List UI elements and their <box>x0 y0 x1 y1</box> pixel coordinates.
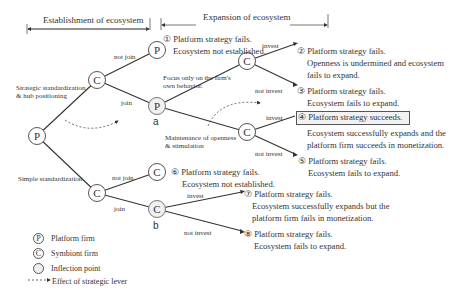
inflection-point-icon <box>33 263 44 274</box>
outcome-3-title: ③ Platform strategy fails. <box>297 85 386 97</box>
legend-symbiont-label: Symbiont firm <box>51 249 98 258</box>
outcome-2-desc-1: Openness is undermined and ecosystem <box>307 57 444 69</box>
outcome-6-title: ⑥ Platform strategy fails. <box>171 166 260 178</box>
edge-label-maintenance-2: & stimulation <box>165 142 204 150</box>
outcome-2-title: ② Platform strategy fails. <box>297 45 386 57</box>
edge-label-join-upper: join <box>121 99 132 107</box>
edge-label-not-invest-5: not invest <box>255 150 282 158</box>
edge-label-not-join-upper: not join <box>114 53 136 61</box>
edge-label-invest-7: invest <box>187 192 204 200</box>
outcome-4-title: ④ Platform strategy succeeds. <box>298 111 402 123</box>
node-label-b: b <box>153 220 159 231</box>
edge-label-not-join-lower: not join <box>112 174 134 182</box>
symbiont-node-b: C <box>148 200 166 218</box>
edge-label-strategic-std-1: Strategic standardization <box>16 84 85 92</box>
outcome-4-desc-1: Ecosystem successfully expands and the <box>307 127 446 139</box>
symbiont-node-upper: C <box>88 71 106 89</box>
expansion-header: Expansion of ecosystem <box>203 11 290 23</box>
edge-label-not-invest-8: not invest <box>184 229 211 237</box>
legend-platform-label: Platform firm <box>51 234 95 243</box>
edge-label-focus-2: own behavior. <box>163 82 203 90</box>
edge-label-simple-std: Simple standardization <box>18 175 82 183</box>
outcome-2-desc-2: fails to expand. <box>307 69 360 81</box>
outcome-5-title: ⑤ Platform strategy fails. <box>298 155 387 167</box>
symbiont-node-notjoin-lower: C <box>148 163 166 181</box>
outcome-8-title: ⑧ Platform strategy fails. <box>244 228 333 240</box>
node-label-a: a <box>153 116 159 127</box>
edge-label-not-invest-3: not invest <box>255 87 282 95</box>
edge-label-strategic-std-2: & hub positioning <box>16 92 67 100</box>
edge-label-focus-1: Focus only on the firm's <box>163 74 231 82</box>
outcome-5-desc: Ecosystem fails to expand. <box>308 167 400 179</box>
platform-node-a: P <box>148 97 166 115</box>
platform-node-root: P <box>28 127 46 145</box>
outcome-7-desc-2: platform firm fails in monetization. <box>252 212 373 224</box>
outcome-7-desc-1: Ecosystem successfully expands but the <box>252 200 389 212</box>
legend-lever-label: Effect of strategic lever <box>52 277 127 286</box>
symbiont-node-lower: C <box>88 184 106 202</box>
platform-firm-icon: P <box>33 233 44 244</box>
outcome-4-desc-2: platform firm succeeds in monetization. <box>307 139 444 151</box>
legend-inflection-label: Inflection point <box>51 264 101 273</box>
symbiont-firm-icon: C <box>33 248 44 259</box>
outcome-1-title: ① Platform strategy fails. <box>163 33 252 45</box>
symbiont-node-mid-right: C <box>238 123 256 141</box>
outcome-7-title: ⑦ Platform strategy fails. <box>244 188 333 200</box>
edge-label-maintenance-1: Maintenance of openness <box>165 134 236 142</box>
establishment-header: Establishment of ecosystem <box>43 14 143 26</box>
outcome-1-desc: Ecosystem not established. <box>173 45 266 57</box>
outcome-8-desc: Ecosystem fails to expand. <box>254 240 346 252</box>
edge-label-invest-4: invest <box>266 114 283 122</box>
edge-label-join-lower: join <box>114 205 125 213</box>
outcome-3-desc: Ecosystem fails to expand. <box>307 97 399 109</box>
